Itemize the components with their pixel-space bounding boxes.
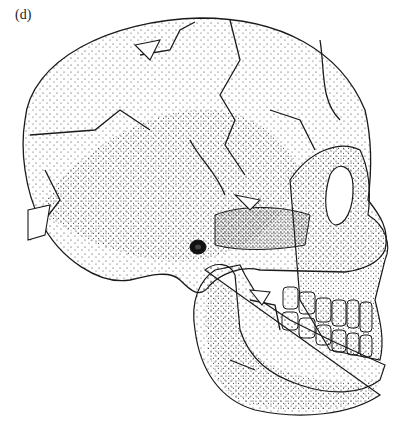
zygomatic-arch (215, 208, 310, 250)
skull-illustration (0, 0, 408, 424)
